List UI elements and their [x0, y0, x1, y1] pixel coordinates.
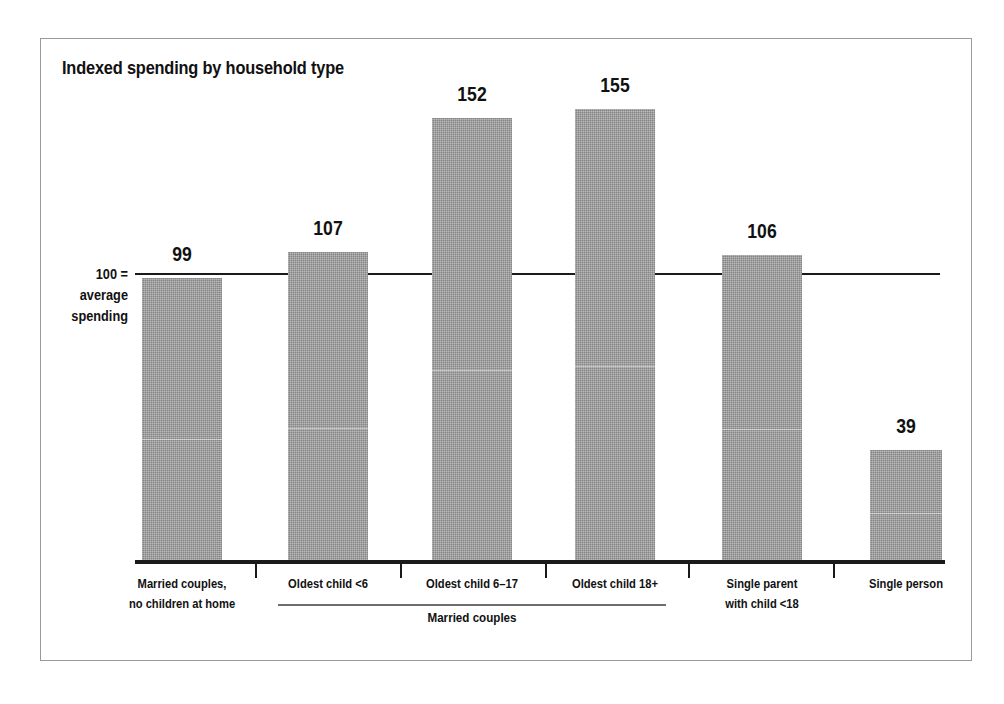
figure-container: Indexed spending by household type 100 =…	[0, 0, 1004, 704]
reference-line-100	[135, 273, 940, 275]
axis-tick	[688, 564, 690, 578]
bar-value-label: 99	[147, 243, 217, 266]
category-label: Single person	[837, 574, 975, 594]
bar-value-label: 152	[437, 83, 507, 106]
axis-tick	[833, 564, 835, 578]
group-bracket-label: Married couples	[305, 610, 639, 625]
bar-value-label: 107	[293, 217, 363, 240]
group-bracket-line	[278, 604, 666, 606]
category-label-line-1: Oldest child 6–17	[403, 574, 541, 594]
reference-label-line-1: 100 =	[68, 264, 128, 285]
category-label: Oldest child 18+	[546, 574, 684, 594]
category-label: Oldest child <6	[259, 574, 397, 594]
plot-area: 100 = average spending 99 107 152 155 10…	[0, 0, 1004, 704]
bar-value-label: 106	[727, 220, 797, 243]
category-label-line-1: Single parent	[693, 574, 831, 594]
category-label-line-1: Oldest child <6	[259, 574, 397, 594]
axis-tick	[400, 564, 402, 578]
category-label-line-1: Single person	[837, 574, 975, 594]
bar	[142, 278, 222, 560]
category-label-line-2: no children at home	[105, 594, 260, 614]
category-label: Single parent with child <18	[693, 574, 831, 614]
bar	[288, 252, 368, 560]
bar	[870, 450, 942, 560]
reference-line-label: 100 = average spending	[68, 264, 128, 327]
bar	[432, 118, 512, 560]
category-label: Oldest child 6–17	[403, 574, 541, 594]
category-label: Married couples, no children at home	[105, 574, 260, 614]
category-label-line-1: Married couples,	[105, 574, 260, 594]
category-axis-line	[135, 560, 945, 564]
bar	[575, 109, 655, 560]
category-label-line-2: with child <18	[693, 594, 831, 614]
bar-value-label: 155	[580, 74, 650, 97]
category-label-line-1: Oldest child 18+	[546, 574, 684, 594]
reference-label-line-3: spending	[68, 306, 128, 327]
reference-label-line-2: average	[68, 285, 128, 306]
bar	[722, 255, 802, 560]
bar-value-label: 39	[871, 415, 941, 438]
